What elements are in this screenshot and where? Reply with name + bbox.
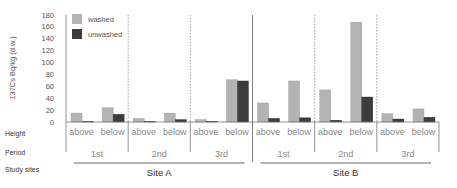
height-cell: above: [318, 127, 343, 137]
legend-label-unwashed: unwashed: [88, 30, 122, 39]
height-cell: below: [101, 127, 125, 137]
period-cell: 1st: [278, 149, 291, 159]
bar-washed: [133, 118, 144, 122]
height-cell: above: [131, 127, 156, 137]
bar-unwashed: [113, 114, 124, 122]
bar-unwashed: [424, 117, 435, 122]
bar-washed: [164, 113, 175, 122]
bar-washed: [413, 109, 424, 122]
height-cell: above: [194, 127, 219, 137]
y-tick-label: 140: [41, 34, 54, 43]
legend-label-washed: washed: [87, 15, 114, 24]
height-cell: above: [256, 127, 281, 137]
bar-unwashed: [269, 118, 280, 122]
site-label: Site A: [147, 167, 172, 178]
y-tick-label: 180: [41, 11, 54, 20]
bar-washed: [226, 80, 237, 122]
row-label-height: Height: [5, 130, 25, 138]
bar-chart: 137Cs Bq/kg (d.w.)0204060801001201401601…: [0, 0, 457, 188]
legend-swatch-washed: [72, 14, 82, 24]
bar-unwashed: [362, 97, 373, 122]
height-cell: below: [350, 127, 374, 137]
y-tick-label: 80: [46, 70, 54, 79]
bar-washed: [258, 103, 269, 122]
height-cell: below: [225, 127, 249, 137]
bar-washed: [351, 22, 362, 122]
y-tick-label: 100: [41, 58, 54, 67]
height-cell: above: [69, 127, 94, 137]
bar-washed: [382, 114, 393, 122]
height-cell: below: [287, 127, 311, 137]
y-tick-label: 0: [50, 118, 54, 127]
period-cell: 2nd: [338, 149, 353, 159]
site-label: Site B: [333, 167, 358, 178]
bar-unwashed: [237, 81, 248, 122]
legend-swatch-unwashed: [72, 29, 82, 39]
bar-unwashed: [393, 119, 404, 122]
period-cell: 1st: [91, 149, 104, 159]
height-cell: below: [163, 127, 187, 137]
row-label-period: Period: [5, 149, 25, 156]
y-tick-label: 60: [46, 82, 54, 91]
height-cell: below: [412, 127, 436, 137]
period-cell: 2nd: [152, 149, 167, 159]
bar-washed: [289, 81, 300, 122]
period-cell: 3rd: [215, 149, 228, 159]
row-label-study-sites: Study sites: [5, 166, 40, 174]
bar-washed: [71, 113, 82, 122]
height-cell: above: [380, 127, 405, 137]
bar-unwashed: [300, 118, 311, 122]
y-tick-label: 120: [41, 46, 54, 55]
y-axis-label: 137Cs Bq/kg (d.w.): [8, 36, 17, 100]
y-tick-label: 40: [46, 94, 54, 103]
bar-washed: [102, 108, 113, 122]
y-tick-label: 160: [41, 22, 54, 31]
period-cell: 3rd: [401, 149, 414, 159]
bar-washed: [320, 90, 331, 122]
y-tick-label: 20: [46, 106, 54, 115]
